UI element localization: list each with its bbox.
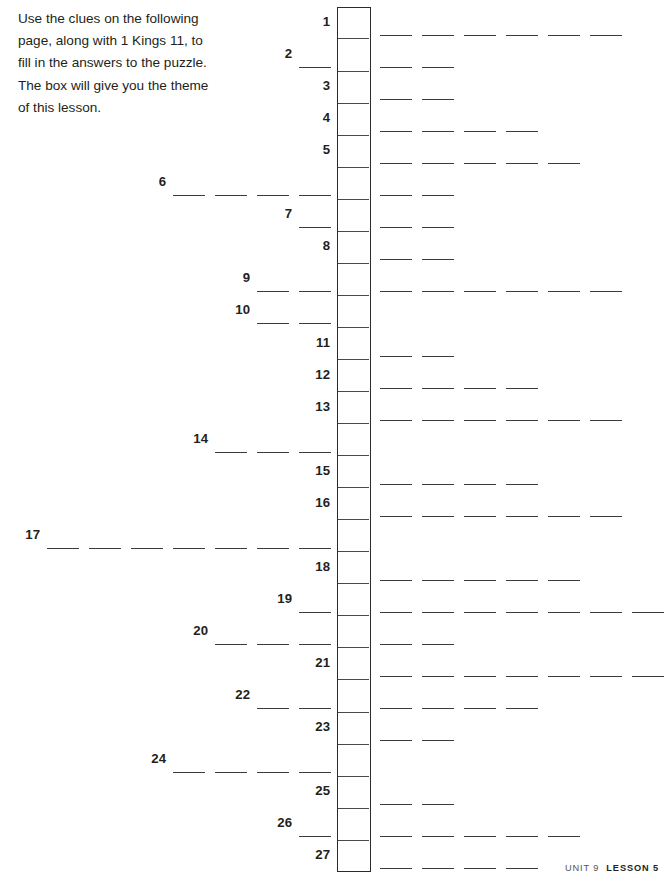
answer-blank[interactable] xyxy=(548,35,580,36)
answer-blank[interactable] xyxy=(422,676,454,677)
answer-blank[interactable] xyxy=(464,868,496,869)
answer-blank[interactable] xyxy=(548,163,580,164)
answer-blank[interactable] xyxy=(257,772,289,773)
answer-blank[interactable] xyxy=(506,388,538,389)
answer-blank[interactable] xyxy=(299,708,331,709)
answer-blank[interactable] xyxy=(422,291,454,292)
answer-blank[interactable] xyxy=(215,772,247,773)
answer-blank[interactable] xyxy=(299,612,331,613)
answer-blank[interactable] xyxy=(299,323,331,324)
answer-blank[interactable] xyxy=(257,708,289,709)
answer-blank[interactable] xyxy=(131,548,163,549)
answer-blank[interactable] xyxy=(422,259,454,260)
answer-blank[interactable] xyxy=(380,356,412,357)
answer-blank[interactable] xyxy=(380,740,412,741)
answer-blank[interactable] xyxy=(422,388,454,389)
answer-blank[interactable] xyxy=(299,67,331,68)
answer-blank[interactable] xyxy=(464,131,496,132)
answer-blank[interactable] xyxy=(380,388,412,389)
answer-blank[interactable] xyxy=(380,868,412,869)
answer-blank[interactable] xyxy=(506,708,538,709)
answer-blank[interactable] xyxy=(464,420,496,421)
answer-blank[interactable] xyxy=(464,676,496,677)
answer-blank[interactable] xyxy=(257,323,289,324)
answer-blank[interactable] xyxy=(422,580,454,581)
answer-blank[interactable] xyxy=(215,195,247,196)
answer-blank[interactable] xyxy=(380,580,412,581)
answer-blank[interactable] xyxy=(422,836,454,837)
answer-blank[interactable] xyxy=(380,35,412,36)
answer-blank[interactable] xyxy=(299,227,331,228)
answer-blank[interactable] xyxy=(380,644,412,645)
answer-blank[interactable] xyxy=(464,291,496,292)
answer-blank[interactable] xyxy=(464,163,496,164)
answer-blank[interactable] xyxy=(299,291,331,292)
answer-blank[interactable] xyxy=(422,195,454,196)
answer-blank[interactable] xyxy=(506,35,538,36)
answer-blank[interactable] xyxy=(590,420,622,421)
answer-blank[interactable] xyxy=(380,708,412,709)
answer-blank[interactable] xyxy=(173,195,205,196)
answer-blank[interactable] xyxy=(422,708,454,709)
answer-blank[interactable] xyxy=(257,291,289,292)
answer-blank[interactable] xyxy=(215,548,247,549)
answer-blank[interactable] xyxy=(506,291,538,292)
answer-blank[interactable] xyxy=(380,676,412,677)
answer-blank[interactable] xyxy=(422,131,454,132)
answer-blank[interactable] xyxy=(464,516,496,517)
answer-blank[interactable] xyxy=(257,452,289,453)
answer-blank[interactable] xyxy=(380,195,412,196)
answer-blank[interactable] xyxy=(464,708,496,709)
answer-blank[interactable] xyxy=(380,484,412,485)
answer-blank[interactable] xyxy=(380,516,412,517)
answer-blank[interactable] xyxy=(506,163,538,164)
answer-blank[interactable] xyxy=(422,67,454,68)
answer-blank[interactable] xyxy=(215,452,247,453)
answer-blank[interactable] xyxy=(173,772,205,773)
answer-blank[interactable] xyxy=(380,804,412,805)
answer-blank[interactable] xyxy=(299,644,331,645)
answer-blank[interactable] xyxy=(299,836,331,837)
answer-blank[interactable] xyxy=(632,612,664,613)
answer-blank[interactable] xyxy=(548,676,580,677)
answer-blank[interactable] xyxy=(548,836,580,837)
answer-blank[interactable] xyxy=(464,484,496,485)
answer-blank[interactable] xyxy=(422,420,454,421)
answer-blank[interactable] xyxy=(422,516,454,517)
answer-blank[interactable] xyxy=(173,548,205,549)
answer-blank[interactable] xyxy=(590,676,622,677)
answer-blank[interactable] xyxy=(299,548,331,549)
answer-blank[interactable] xyxy=(548,580,580,581)
answer-blank[interactable] xyxy=(548,516,580,517)
answer-blank[interactable] xyxy=(464,612,496,613)
answer-blank[interactable] xyxy=(299,772,331,773)
answer-blank[interactable] xyxy=(464,35,496,36)
answer-blank[interactable] xyxy=(506,836,538,837)
answer-blank[interactable] xyxy=(257,644,289,645)
answer-blank[interactable] xyxy=(422,740,454,741)
answer-blank[interactable] xyxy=(632,676,664,677)
answer-blank[interactable] xyxy=(380,420,412,421)
answer-blank[interactable] xyxy=(257,195,289,196)
answer-blank[interactable] xyxy=(422,804,454,805)
answer-blank[interactable] xyxy=(548,420,580,421)
answer-blank[interactable] xyxy=(422,227,454,228)
answer-blank[interactable] xyxy=(548,291,580,292)
answer-blank[interactable] xyxy=(380,67,412,68)
answer-blank[interactable] xyxy=(299,452,331,453)
answer-blank[interactable] xyxy=(380,259,412,260)
answer-blank[interactable] xyxy=(380,291,412,292)
answer-blank[interactable] xyxy=(215,644,247,645)
answer-blank[interactable] xyxy=(590,35,622,36)
answer-blank[interactable] xyxy=(299,195,331,196)
answer-blank[interactable] xyxy=(422,868,454,869)
answer-blank[interactable] xyxy=(506,516,538,517)
answer-blank[interactable] xyxy=(464,580,496,581)
answer-blank[interactable] xyxy=(47,548,79,549)
answer-blank[interactable] xyxy=(464,836,496,837)
answer-blank[interactable] xyxy=(380,163,412,164)
answer-blank[interactable] xyxy=(89,548,121,549)
answer-blank[interactable] xyxy=(506,131,538,132)
answer-blank[interactable] xyxy=(506,420,538,421)
answer-blank[interactable] xyxy=(422,484,454,485)
